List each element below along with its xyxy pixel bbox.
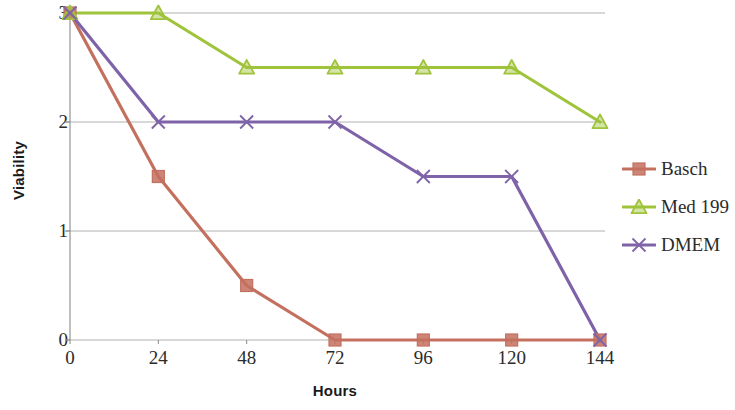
- data-point-square-marker: [152, 171, 164, 183]
- x-tick-label: 0: [40, 348, 100, 367]
- data-point-square-marker: [329, 334, 341, 346]
- plot-area: [70, 13, 600, 340]
- chart-legend: BaschMed 199DMEM: [622, 150, 734, 264]
- y-axis-tick-labels: 3210: [34, 0, 68, 360]
- y-tick-label: 2: [42, 112, 68, 131]
- y-axis-title: Viability: [2, 0, 36, 340]
- legend-item-label: Basch: [661, 158, 707, 180]
- legend-item[interactable]: Basch: [622, 150, 734, 188]
- viability-line-chart: Viability 3210 024487296120144 Hours Bas…: [0, 0, 735, 410]
- legend-swatch-x-icon: [622, 237, 656, 253]
- x-axis-tick-labels: 024487296120144: [70, 348, 600, 374]
- legend-swatch-square-icon: [622, 161, 656, 177]
- legend-item-label: Med 199: [661, 196, 729, 218]
- x-axis-title: Hours: [70, 382, 600, 399]
- data-point-square-marker: [506, 334, 518, 346]
- y-axis-title-label: Viability: [11, 140, 28, 199]
- x-tick-label: 24: [128, 348, 188, 367]
- legend-item[interactable]: Med 199: [622, 188, 734, 226]
- legend-item[interactable]: DMEM: [622, 226, 734, 264]
- x-tick-label: 144: [570, 348, 630, 367]
- legend-item-label: DMEM: [661, 234, 720, 256]
- x-tick-label: 120: [482, 348, 542, 367]
- data-point-triangle-marker: [593, 115, 608, 129]
- y-tick-label: 0: [42, 330, 68, 349]
- plot-svg: [70, 13, 600, 340]
- data-point-square-marker: [417, 334, 429, 346]
- data-point-square-marker: [241, 280, 253, 292]
- legend-swatch-triangle-icon: [622, 199, 656, 215]
- x-tick-label: 48: [217, 348, 277, 367]
- x-tick-label: 72: [305, 348, 365, 367]
- data-point-square-marker: [633, 163, 645, 175]
- y-tick-label: 1: [42, 221, 68, 240]
- x-tick-label: 96: [393, 348, 453, 367]
